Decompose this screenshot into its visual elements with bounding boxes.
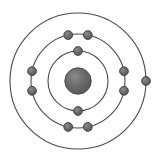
nucleus-group bbox=[65, 68, 91, 94]
bohr-atom-diagram bbox=[0, 0, 156, 162]
electron-shell-m-1 bbox=[142, 77, 151, 86]
electron-shell-l-6 bbox=[64, 123, 73, 132]
electron-shell-l-5 bbox=[83, 123, 92, 132]
electron-shell-l-7 bbox=[28, 86, 37, 95]
electron-shell-l-3 bbox=[120, 67, 129, 76]
electron-shell-l-1 bbox=[64, 31, 73, 40]
electron-shell-k-1 bbox=[74, 47, 83, 56]
electron-shell-k-2 bbox=[74, 107, 83, 116]
nucleus bbox=[65, 68, 91, 94]
atom-canvas bbox=[0, 0, 156, 162]
electron-shell-l-8 bbox=[28, 67, 37, 76]
electron-shell-l-2 bbox=[83, 31, 92, 40]
electron-shell-l-4 bbox=[120, 86, 129, 95]
